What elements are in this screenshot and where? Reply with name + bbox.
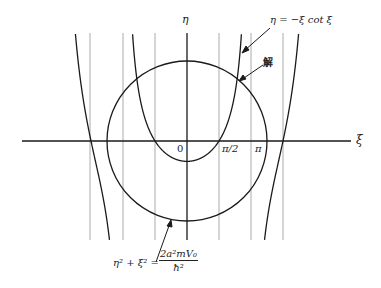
cot-branch-left bbox=[75, 34, 109, 240]
eta-axis-label: η bbox=[182, 13, 189, 26]
arrow-equation bbox=[244, 28, 270, 51]
xi-axis-label: ξ bbox=[356, 133, 363, 147]
diagram-canvas bbox=[0, 0, 381, 288]
circle-equation-fraction: 2a²mV₀ ħ² bbox=[159, 248, 198, 273]
curve-equation-label: η = −ξ cot ξ bbox=[270, 14, 332, 25]
circle-equation-numerator: 2a²mV₀ bbox=[159, 248, 198, 261]
arrowhead-solution bbox=[239, 75, 246, 81]
tick-label-pi: π bbox=[255, 143, 262, 154]
tick-label-pi-over-2: π/2 bbox=[222, 143, 238, 154]
circle-equation-lhs: η² + ξ² = bbox=[113, 257, 159, 268]
arrowhead-circle bbox=[167, 220, 172, 227]
solution-label: 解 bbox=[263, 54, 273, 69]
origin-label: 0 bbox=[177, 143, 183, 154]
circle-equation-denominator: ħ² bbox=[159, 261, 198, 273]
annotation-arrows bbox=[156, 28, 270, 262]
